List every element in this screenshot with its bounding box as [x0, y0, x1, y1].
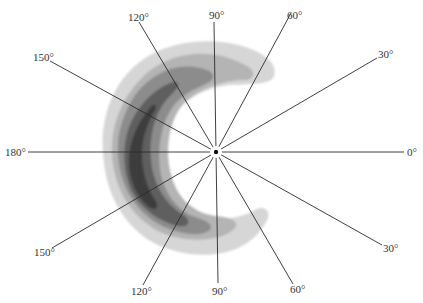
label-0: 0° — [407, 147, 417, 158]
label-150-lower: 150° — [34, 247, 55, 258]
polar-diagram — [0, 0, 423, 303]
label-30-upper: 30° — [378, 49, 393, 60]
label-90-lower: 90° — [212, 286, 227, 297]
center-point — [214, 150, 218, 154]
label-120-upper: 120° — [128, 12, 149, 23]
label-90-upper: 90° — [209, 10, 224, 21]
label-60-upper: 60° — [287, 10, 302, 21]
label-180: 180° — [5, 147, 26, 158]
crescent-contours — [103, 41, 275, 254]
label-30-lower: 30° — [383, 243, 398, 254]
label-60-lower: 60° — [290, 284, 305, 295]
label-120-lower: 120° — [131, 286, 152, 297]
label-150-upper: 150° — [33, 52, 54, 63]
